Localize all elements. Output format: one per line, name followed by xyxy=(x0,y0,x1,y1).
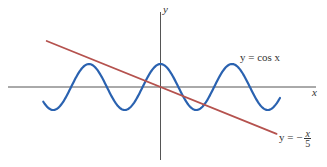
y-axis-label: y xyxy=(163,3,168,15)
line-label-denominator: 5 xyxy=(305,139,310,148)
line-label-fraction: x5 xyxy=(304,129,310,148)
cos-curve-label: y = cos x xyxy=(240,51,280,63)
x-axis-label: x xyxy=(312,86,317,98)
linear-line-label: y = −x5 xyxy=(279,129,311,148)
chart-canvas xyxy=(0,0,327,167)
cos-label-text: y = cos x xyxy=(240,51,280,63)
line-label-prefix: y = − xyxy=(279,131,302,143)
